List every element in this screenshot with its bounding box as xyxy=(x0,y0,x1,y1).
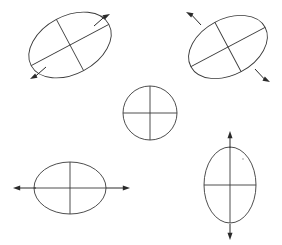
arrow-head xyxy=(102,14,110,20)
arrow-head xyxy=(123,186,130,191)
arrow-northeast-top-left xyxy=(94,14,110,26)
arrow-head xyxy=(228,131,233,138)
strain-ellipse-bottom-right-body xyxy=(204,147,256,223)
arrow-south-bottom-right xyxy=(228,224,233,240)
arrow-shaft xyxy=(255,69,264,79)
minor-axis-line-top-right xyxy=(215,22,241,71)
arrow-head xyxy=(262,76,270,82)
strain-ellipse-diagram xyxy=(0,0,282,245)
arrow-head xyxy=(13,186,20,191)
arrow-northwest-top-right xyxy=(186,12,201,25)
arrow-west-bottom-left xyxy=(13,186,36,191)
strain-circle-center-body xyxy=(123,86,177,140)
strain-ellipse-bottom-right xyxy=(204,131,256,240)
arrow-head xyxy=(186,12,194,18)
arrow-east-bottom-left xyxy=(106,186,130,191)
strain-ellipse-top-right xyxy=(178,3,278,92)
strain-ellipse-bottom-left xyxy=(13,162,130,214)
strain-ellipse-top-left xyxy=(18,0,123,91)
strain-ellipse-bottom-left-body xyxy=(34,162,106,214)
arrow-head xyxy=(30,73,38,79)
stray-speck xyxy=(242,158,244,160)
arrow-southeast-top-right xyxy=(255,69,270,82)
arrow-north-bottom-right xyxy=(228,131,233,148)
arrow-shaft xyxy=(192,15,201,25)
strain-circle-center xyxy=(123,86,177,140)
arrow-shaft xyxy=(94,17,104,26)
minor-axis-line-top-left xyxy=(56,19,83,70)
arrow-head xyxy=(228,233,233,240)
